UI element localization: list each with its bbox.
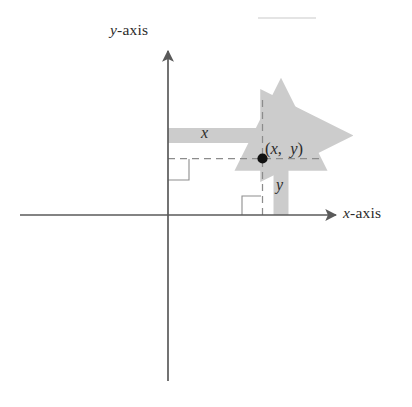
point-label-close-paren: ) bbox=[298, 139, 304, 158]
right-angle-mark-x-axis bbox=[242, 196, 261, 215]
x-axis-label: x-axis bbox=[343, 204, 381, 222]
x-axis-label-suffix: -axis bbox=[350, 204, 381, 221]
point-label-x: x bbox=[271, 139, 278, 158]
point-label-y: y bbox=[290, 139, 297, 158]
point-label-space bbox=[282, 139, 290, 158]
right-angle-mark-y-axis bbox=[168, 159, 189, 180]
coordinate-plane-diagram: y-axis x-axis (x, y) x y bbox=[0, 0, 412, 407]
point-coordinate-label: (x, y) bbox=[265, 139, 303, 159]
y-axis-label-suffix: -axis bbox=[117, 21, 148, 38]
y-distance-bar-label: y bbox=[276, 176, 283, 194]
x-distance-bar-label: x bbox=[201, 124, 208, 142]
y-axis-label: y-axis bbox=[110, 21, 148, 39]
